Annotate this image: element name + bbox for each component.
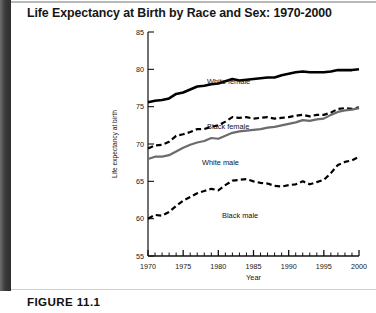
x-axis-tick-labels: 1970 1975 1980 1985 1990 1995 2000 — [140, 262, 367, 271]
figure-caption: FIGURE 11.1 — [27, 295, 100, 308]
y-tick-label: 60 — [136, 214, 144, 223]
y-tick-label: 70 — [136, 140, 144, 149]
series-line-white-male — [148, 108, 359, 159]
x-axis-title: Year — [246, 273, 261, 282]
x-tick-label: 2000 — [351, 262, 367, 271]
bottom-divider — [11, 289, 376, 290]
x-tick-label: 1970 — [140, 262, 156, 271]
series-label-white-female: White female — [207, 77, 250, 86]
x-tick-label: 1975 — [175, 262, 191, 271]
series-line-white-female — [148, 69, 359, 102]
x-tick-label: 1985 — [246, 262, 262, 271]
series-label-white-male: White male — [202, 158, 239, 167]
series-line-black-female — [148, 107, 359, 148]
series-label-black-male: Black male — [222, 211, 258, 220]
series-label-black-female: Black female — [207, 122, 249, 131]
series-line-black-male — [148, 157, 359, 219]
x-tick-label: 1990 — [281, 262, 297, 271]
line-chart: 85 80 75 70 65 60 55 Life expectancy at … — [104, 24, 372, 282]
y-tick-label: 80 — [136, 65, 144, 74]
y-axis-title: Life expectancy at birth — [111, 110, 119, 178]
scan-gutter-artifact — [0, 0, 11, 291]
x-axis-ticks — [148, 250, 359, 256]
y-tick-label: 65 — [136, 177, 144, 186]
y-tick-label: 85 — [136, 28, 144, 37]
y-axis-tick-labels: 85 80 75 70 65 60 55 — [136, 28, 144, 261]
page-title: Life Expectancy at Birth by Race and Sex… — [27, 6, 332, 20]
x-tick-label: 1995 — [316, 262, 332, 271]
chart-series-group — [148, 69, 359, 218]
y-tick-label: 55 — [136, 252, 144, 261]
top-divider — [11, 1, 376, 3]
x-tick-label: 1980 — [210, 262, 226, 271]
figure-page: Life Expectancy at Birth by Race and Sex… — [0, 0, 376, 313]
chart-plot-area: 85 80 75 70 65 60 55 Life expectancy at … — [104, 24, 372, 282]
y-tick-label: 75 — [136, 102, 144, 111]
y-axis-ticks — [148, 32, 154, 256]
